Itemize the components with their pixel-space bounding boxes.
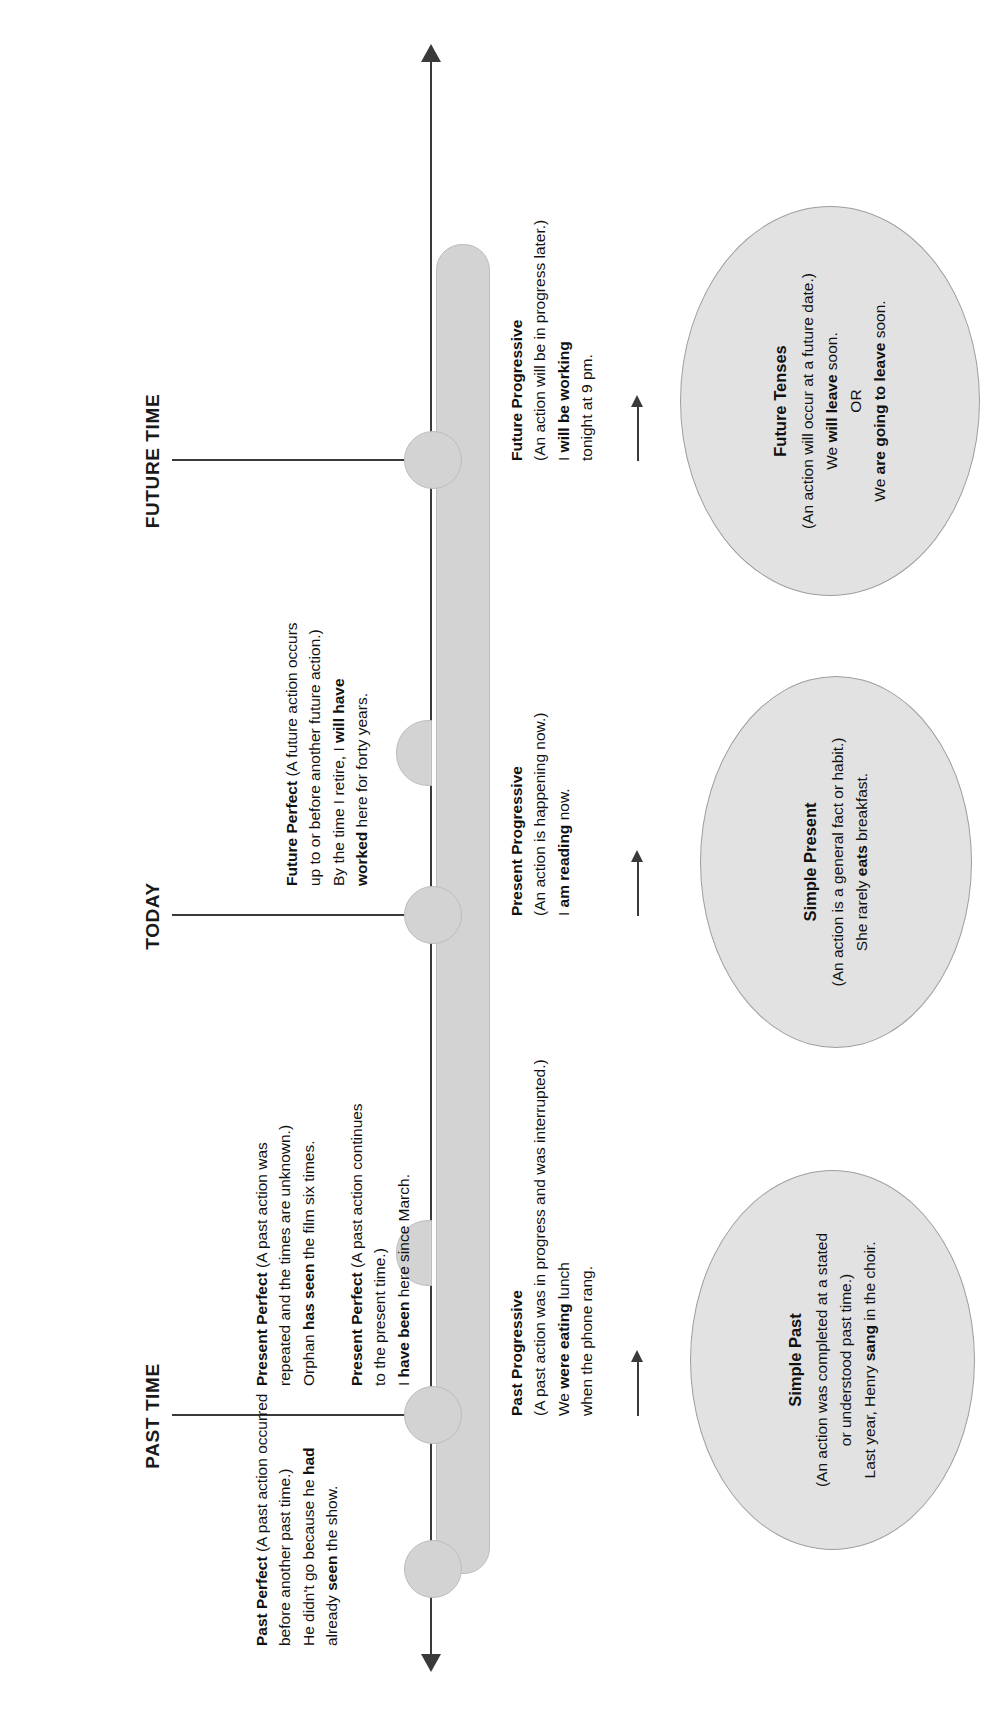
connector-simple-present [637,862,639,916]
ellipse-future-tenses-title: Future Tenses [768,345,794,457]
note-present-perfect-continues-example-pre: I [395,1377,412,1386]
note-past-perfect-example2-pre: already [323,1591,340,1646]
note-future-perfect-example2-bold: worked [353,832,370,886]
ellipse-future-tenses-or-label: OR [844,389,868,412]
ellipse-future-tenses-example2-post: soon. [871,300,888,342]
ellipse-simple-past-line1: (An action was completed at a stated [810,1233,834,1487]
note-future-perfect-example-bold: will have [330,678,347,743]
note-past-perfect-paren1: (A past action occurred [253,1394,270,1553]
note-present-perfect-continues-example-bold: have been [395,1302,412,1378]
note-future-perfect-example-pre: By the time I retire, I [330,743,347,886]
note-future-perfect-paren1: (A future action occurs [283,622,300,776]
note-present-perfect-continues-example-post: here since March. [395,1174,412,1302]
band-lobe-start [404,1540,462,1598]
ellipse-simple-past-line2: or understood past time.) [834,1274,858,1446]
ellipse-simple-past: Simple Past (An action was completed at … [690,1170,975,1550]
note-future-progressive-title: Future Progressive [505,220,528,461]
tick-future-time [172,459,432,461]
note-future-perfect-example2-post: here for forty years. [353,693,370,832]
note-present-perfect-continues-paren2: to the present time.) [368,1103,391,1386]
ellipse-future-tenses: Future Tenses (An action will occur at a… [680,206,980,596]
note-present-perfect-repeated-example-pre: Orphan [300,1330,317,1386]
note-past-perfect-example-pre: He didn't go because he [300,1475,317,1646]
note-present-progressive-title: Present Progressive [505,713,528,916]
note-future-progressive-example-pre: I [555,452,572,461]
note-past-progressive-title: Past Progressive [505,1059,528,1416]
tick-today [172,914,432,916]
band-lobe-past [404,1386,462,1444]
ellipse-future-tenses-example1-bold: will leave [823,374,840,442]
ellipse-future-tenses-example2-bold: are going to leave [871,343,888,475]
ellipse-simple-present-title: Simple Present [798,802,824,921]
connector-future-tenses [637,407,639,461]
ellipse-simple-present-example-pre: She rarely [853,876,870,951]
ellipse-simple-past-example-bold: sang [861,1325,878,1361]
note-past-progressive-example-bold: were eating [555,1303,572,1388]
note-past-perfect: Past Perfect (A past action occurred bef… [250,1394,343,1646]
band-notch-2 [396,720,432,786]
note-future-perfect-title: Future Perfect [283,781,300,886]
note-future-progressive-paren: (An action will be in progress later.) [528,220,551,461]
note-present-perfect-repeated-example-post: the film six times. [300,1140,317,1263]
note-future-progressive: Future Progressive (An action will be in… [505,220,598,461]
note-present-perfect-continues-title: Present Perfect [348,1272,365,1386]
note-present-perfect-continues: Present Perfect (A past action continues… [345,1103,415,1386]
heading-future-time: FUTURE TIME [142,394,164,528]
connector-future-tenses-arrow-icon [631,395,643,407]
ellipse-simple-past-example-post: in the choir. [861,1242,878,1326]
note-past-perfect-example-bold: had [300,1447,317,1475]
note-past-progressive: Past Progressive (A past action was in p… [505,1059,598,1416]
ellipse-future-tenses-example1-post: soon. [823,332,840,374]
ellipse-simple-past-title: Simple Past [783,1313,809,1407]
note-past-perfect-example2-post: the show. [323,1486,340,1556]
note-past-perfect-title: Past Perfect [253,1556,270,1646]
note-present-progressive-example-post: now. [555,788,572,824]
note-future-perfect-paren2: up to or before another future action.) [303,622,326,886]
note-past-progressive-example-pre: We [555,1389,572,1416]
note-present-perfect-repeated-paren1: (A past action was [253,1142,270,1268]
connector-simple-past [637,1362,639,1416]
note-present-progressive: Present Progressive (An action is happen… [505,713,575,916]
ellipse-simple-past-example-pre: Last year, Henry [861,1361,878,1478]
ellipse-simple-present: Simple Present (An action is a general f… [700,676,972,1048]
ellipse-simple-present-example-post: breakfast. [853,773,870,845]
band-lobe-future [404,431,462,489]
heading-past-time: PAST TIME [142,1363,164,1468]
note-past-progressive-paren: (A past action was in progress and was i… [528,1059,551,1416]
note-past-progressive-example-line2: when the phone rang. [575,1059,598,1416]
note-past-progressive-example-post: lunch [555,1262,572,1303]
note-future-perfect: Future Perfect (A future action occurs u… [280,622,373,886]
note-present-progressive-paren: (An action is happening now.) [528,713,551,916]
connector-simple-present-arrow-icon [631,850,643,862]
band-lobe-today [404,886,462,944]
note-present-progressive-example-pre: I [555,907,572,916]
timeline-arrow-right-icon [421,44,441,62]
note-future-progressive-example-line2: tonight at 9 pm. [575,220,598,461]
note-present-perfect-repeated-title: Present Perfect [253,1272,270,1386]
connector-simple-past-arrow-icon [631,1350,643,1362]
timeline-arrow-left-icon [421,1654,441,1672]
note-past-perfect-paren2: before another past time.) [273,1394,296,1646]
heading-today: TODAY [142,882,164,949]
note-present-perfect-repeated: Present Perfect (A past action was repea… [250,1125,320,1386]
note-present-perfect-repeated-paren2: repeated and the times are unknown.) [273,1125,296,1386]
ellipse-simple-present-example-bold: eats [853,845,870,876]
ellipse-future-tenses-line1: (An action will occur at a future date.) [796,273,820,529]
verb-tense-timeline-diagram: PAST TIME TODAY FUTURE TIME Past Perfect… [0,0,1003,1716]
note-past-perfect-example2-bold: seen [323,1556,340,1591]
ellipse-future-tenses-example2-pre: We [871,474,888,501]
note-present-perfect-continues-paren1: (A past action continues [348,1103,365,1268]
note-future-progressive-example-bold: will be working [555,341,572,452]
note-present-perfect-repeated-example-bold: has seen [300,1264,317,1330]
ellipse-future-tenses-example1-pre: We [823,443,840,470]
note-present-progressive-example-bold: am reading [555,825,572,908]
ellipse-simple-present-line1: (An action is a general fact or habit.) [826,738,850,987]
